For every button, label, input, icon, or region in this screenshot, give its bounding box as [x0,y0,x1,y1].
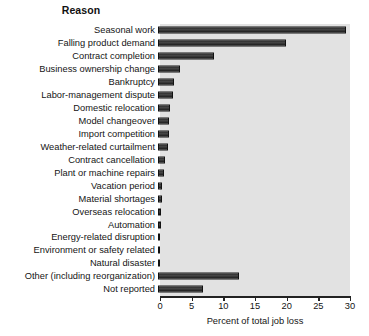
bar-row: Contract cancellation [0,153,350,166]
bar-cell [158,205,348,218]
category-label: Overseas relocation [0,207,158,217]
bar [158,234,160,241]
category-label: Material shortages [0,194,158,204]
bar-row: Overseas relocation [0,205,350,218]
bar-row: Vacation period [0,179,350,192]
job-loss-reason-bar-chart: Reason Seasonal workFalling product dema… [0,0,369,336]
bar [158,92,173,99]
x-tick-label: 20 [276,301,298,311]
category-label: Environment or safety related [0,245,158,255]
category-label: Not reported [0,284,158,294]
bar [158,208,161,215]
bar-cell [158,24,348,37]
bar-row: Falling product demand [0,37,350,50]
category-label: Energy-related disruption [0,232,158,242]
bar-row: Bankruptcy [0,76,350,89]
category-label: Falling product demand [0,38,158,48]
bar-cell [158,37,348,50]
bar-rows-container: Seasonal workFalling product demandContr… [0,24,350,296]
category-label: Business ownership change [0,64,158,74]
bar [158,286,203,293]
bar-row: Plant or machine repairs [0,166,350,179]
bar [158,260,160,267]
bar [158,105,170,112]
bar-cell [158,257,348,270]
category-label: Labor-management dispute [0,90,158,100]
bar [158,79,174,86]
category-label: Automation [0,220,158,230]
bar [158,182,162,189]
chart-title: Reason [0,4,162,16]
bar-cell [158,89,348,102]
bar-row: Natural disaster [0,257,350,270]
bar [158,195,162,202]
bar-row: Energy-related disruption [0,231,350,244]
bar-cell [158,244,348,257]
bar [158,221,161,228]
bar-cell [158,115,348,128]
bar-row: Automation [0,218,350,231]
bar [158,40,286,47]
category-label: Bankruptcy [0,77,158,87]
bar-cell [158,63,348,76]
bar-row: Weather-related curtailment [0,140,350,153]
bar-cell [158,231,348,244]
bar [158,66,180,73]
bar-row: Other (including reorganization) [0,270,350,283]
category-label: Seasonal work [0,25,158,35]
category-label: Vacation period [0,181,158,191]
x-tick-label: 15 [244,301,266,311]
bar-cell [158,102,348,115]
x-tick-label: 5 [181,301,203,311]
bar-cell [158,128,348,141]
bar-row: Contract completion [0,50,350,63]
bar [158,53,214,60]
bar-row: Environment or safety related [0,244,350,257]
bar-cell [158,270,348,283]
bar-cell [158,192,348,205]
bar-row: Model changeover [0,115,350,128]
bar-row: Material shortages [0,192,350,205]
bar [158,156,165,163]
bar [158,273,239,280]
x-tick-label: 0 [149,301,171,311]
category-label: Contract completion [0,51,158,61]
category-label: Domestic relocation [0,103,158,113]
category-label: Other (including reorganization) [0,271,158,281]
bar-cell [158,218,348,231]
bar-row: Labor-management dispute [0,89,350,102]
bar [158,169,164,176]
bar-cell [158,166,348,179]
category-label: Natural disaster [0,258,158,268]
bar-row: Import competition [0,128,350,141]
bar-cell [158,179,348,192]
x-tick-label: 30 [339,301,361,311]
bar-row: Domestic relocation [0,102,350,115]
bar-cell [158,140,348,153]
bar-cell [158,153,348,166]
bar-cell [158,76,348,89]
category-label: Plant or machine repairs [0,168,158,178]
category-label: Weather-related curtailment [0,142,158,152]
category-label: Contract cancellation [0,155,158,165]
bar-row: Not reported [0,283,350,296]
category-label: Model changeover [0,116,158,126]
bar-cell [158,283,348,296]
bar-row: Business ownership change [0,63,350,76]
x-tick-label: 25 [307,301,329,311]
bar-row: Seasonal work [0,24,350,37]
bar [158,143,168,150]
category-label: Import competition [0,129,158,139]
bar [158,118,169,125]
x-axis-title: Percent of total job loss [160,316,350,326]
bar [158,247,160,254]
bar-cell [158,50,348,63]
x-tick-label: 10 [212,301,234,311]
bar [158,27,346,34]
bar [158,130,169,137]
